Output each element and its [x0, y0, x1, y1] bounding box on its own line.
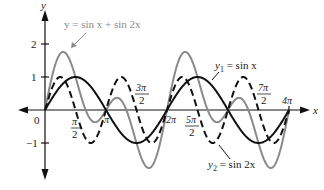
x-tick-label-3pi-half: 3π 2 — [135, 82, 149, 106]
x-tick-label-2pi: 2π — [166, 114, 177, 125]
annotation-sinx: y1 = sin x — [212, 59, 257, 80]
trig-graph: y x 0 2 1 −1 π 2 π 3π 2 2π 5π 2 7π 2 4π … — [0, 0, 324, 190]
y-tick-label-neg1: −1 — [26, 137, 38, 149]
x-axis-label: x — [312, 104, 318, 116]
y-axis-label: y — [40, 0, 46, 11]
annotation-sum: y = sin x + sin 2x — [64, 18, 141, 48]
x-axis-left-arrow-icon — [18, 107, 28, 114]
origin-label: 0 — [34, 114, 40, 126]
x-axis-right-arrow-icon — [300, 107, 310, 114]
svg-text:y1 = sin x: y1 = sin x — [214, 59, 257, 74]
svg-text:2: 2 — [261, 94, 267, 106]
svg-text:2: 2 — [139, 94, 145, 106]
y-tick-label-1: 1 — [31, 71, 37, 83]
y-axis-down-arrow-icon — [42, 169, 49, 180]
svg-text:y2 = sin 2x: y2 = sin 2x — [207, 158, 256, 173]
svg-text:y = sin x + sin 2x: y = sin x + sin 2x — [64, 18, 141, 30]
x-tick-label-5pi-half: 5π 2 — [185, 114, 199, 138]
svg-text:3π: 3π — [135, 82, 147, 93]
x-tick-label-pi-half: π 2 — [71, 116, 80, 140]
x-tick-label-4pi: 4π — [282, 95, 293, 106]
svg-text:2: 2 — [189, 126, 195, 138]
y-tick-label-2: 2 — [31, 38, 37, 50]
x-tick-label-7pi-half: 7π 2 — [257, 82, 271, 106]
svg-text:5π: 5π — [186, 114, 197, 125]
svg-text:7π: 7π — [258, 82, 269, 93]
svg-text:2: 2 — [72, 128, 78, 140]
annotation-sin2x: y2 = sin 2x — [207, 145, 256, 173]
y-axis-up-arrow-icon — [42, 10, 49, 21]
